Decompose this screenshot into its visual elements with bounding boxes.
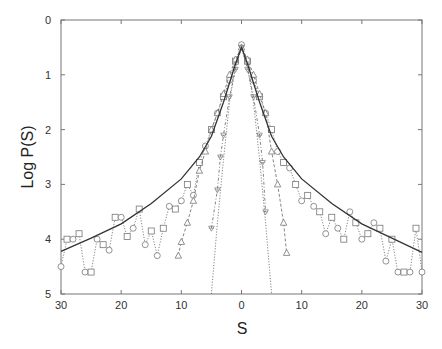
series-none-dotted	[211, 47, 271, 294]
series-triangle-up-dashed	[175, 44, 290, 258]
y-axis-title: Log P(S)	[19, 125, 36, 188]
x-tick-label: 20	[115, 299, 127, 311]
x-tick-label: 30	[55, 299, 67, 311]
x-tick-label: 20	[356, 299, 368, 311]
series-triangle-down-dash-dot	[209, 45, 269, 231]
x-tick-label: 10	[296, 299, 308, 311]
plot-frame	[61, 20, 422, 294]
y-tick-label: 1	[45, 69, 51, 81]
series-layer	[58, 42, 425, 294]
x-axis-title: S	[237, 320, 248, 337]
y-tick-label: 3	[45, 178, 51, 190]
y-axis-ticks: 012345	[45, 14, 422, 300]
y-tick-label: 2	[45, 124, 51, 136]
x-tick-label: 0	[238, 299, 244, 311]
x-tick-label: 30	[416, 299, 428, 311]
series-none-solid	[61, 47, 422, 252]
y-tick-label: 0	[45, 14, 51, 26]
x-tick-label: 10	[175, 299, 187, 311]
y-tick-label: 4	[45, 233, 51, 245]
y-tick-label: 5	[45, 288, 51, 300]
series-circle-square-dotted	[58, 42, 425, 275]
x-axis-ticks: 3020100102030	[55, 20, 428, 311]
chart: 3020100102030 012345 S Log P(S)	[0, 0, 442, 349]
